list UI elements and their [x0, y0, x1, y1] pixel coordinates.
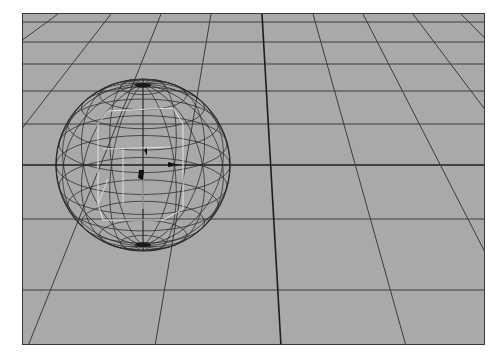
pivot-handle-z[interactable] — [138, 170, 144, 180]
sphere-longitude — [143, 80, 176, 246]
pivot-handle-y[interactable] — [144, 148, 147, 156]
viewport-scene[interactable] — [23, 14, 485, 345]
manipulator-guides — [98, 147, 171, 209]
sphere-south-pole — [135, 242, 151, 247]
ground-grid — [23, 14, 485, 345]
3d-viewport[interactable] — [22, 13, 485, 345]
sphere-longitude — [110, 80, 143, 246]
sphere-north-pole — [135, 83, 151, 88]
